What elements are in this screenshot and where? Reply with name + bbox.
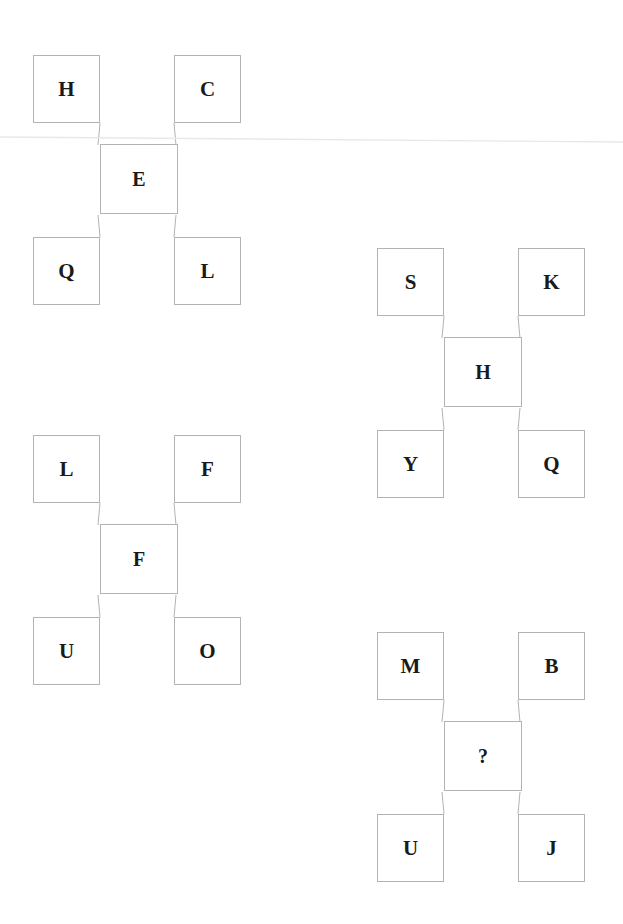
cell-letter: H [475, 362, 491, 382]
missing-answer-marker: ? [478, 746, 488, 766]
cell-letter: H [58, 79, 74, 100]
cell-top-left: L [33, 435, 100, 503]
cell-bottom-right: Q [518, 430, 585, 498]
cell-letter: M [401, 656, 421, 677]
cell-letter: E [132, 169, 145, 189]
cell-top-right: F [174, 435, 241, 503]
cell-letter: U [403, 838, 418, 859]
cell-bottom-right: O [174, 617, 241, 685]
cell-letter: S [405, 272, 417, 293]
cell-bottom-right: J [518, 814, 585, 882]
cell-center: E [100, 144, 178, 214]
cell-letter: J [546, 838, 557, 859]
cell-letter: L [200, 261, 214, 282]
cell-center: H [444, 337, 522, 407]
cell-letter: C [200, 79, 215, 100]
cell-letter: B [544, 656, 558, 677]
cell-top-right: B [518, 632, 585, 700]
cell-bottom-right: L [174, 237, 241, 305]
cell-letter: Q [58, 261, 74, 282]
cell-bottom-left: U [33, 617, 100, 685]
cell-bottom-left: Y [377, 430, 444, 498]
cell-top-right: C [174, 55, 241, 123]
cell-top-left: S [377, 248, 444, 316]
cell-bottom-left: Q [33, 237, 100, 305]
cell-letter: Q [543, 454, 559, 475]
cell-letter: O [199, 641, 215, 662]
cell-letter: F [133, 549, 145, 569]
cell-letter: F [201, 459, 214, 480]
puzzle-canvas: H C E Q L S K H Y Q L F F U O M B ? U J [0, 0, 623, 924]
cell-bottom-left: U [377, 814, 444, 882]
cell-center-answer: ? [444, 721, 522, 791]
cell-top-left: M [377, 632, 444, 700]
cell-letter: U [59, 641, 74, 662]
cell-top-left: H [33, 55, 100, 123]
cell-letter: K [543, 272, 559, 293]
cell-letter: L [59, 459, 73, 480]
cell-letter: Y [403, 454, 418, 475]
cell-center: F [100, 524, 178, 594]
cell-top-right: K [518, 248, 585, 316]
